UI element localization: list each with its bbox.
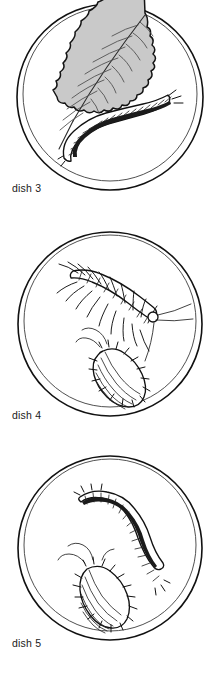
dish-5-figure [12,450,208,646]
dish-label-4: dish 4 [12,409,41,421]
dish-label-3: dish 3 [12,182,41,194]
dish-panel-4: dish 4 [0,225,220,450]
dish-label-5: dish 5 [12,637,41,649]
dish-3-figure [12,0,208,196]
worksheet-sheet: dish 3 [0,0,220,674]
dish-panel-3: dish 3 [0,0,220,225]
dish-panel-5: dish 5 [0,450,220,674]
dish-4-figure [12,225,208,421]
